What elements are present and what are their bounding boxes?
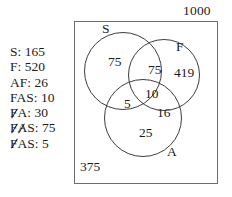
region-count-all-three: 10 [145, 86, 159, 102]
given-row-fa-struck: FA: 30 [10, 105, 72, 120]
given-row-fas-struck-fa: FAS: 75 [10, 120, 72, 135]
given-value-af: 26 [34, 75, 48, 90]
given-term-fa-rest: A: [18, 105, 32, 120]
given-term-f: F: [10, 59, 21, 74]
region-count-outside-all-sets: 375 [80, 159, 100, 175]
given-row-s: S: 165 [10, 44, 72, 59]
given-term-fas-rest: S: [27, 120, 38, 135]
given-term-fas: FAS: [10, 90, 38, 105]
region-count-s-and-f: 75 [148, 62, 162, 78]
struck-letter-f: F [10, 105, 18, 120]
given-value-f: 520 [25, 59, 45, 74]
set-label-f: F [176, 39, 184, 55]
given-value-s: 165 [25, 44, 45, 59]
struck-letter-f: F [10, 120, 18, 135]
venn-diagram-figure: S: 165 F: 520 AF: 26 FAS: 10 FA: 30 FAS:… [0, 0, 232, 197]
given-term-s: S: [10, 44, 21, 59]
set-label-a: A [167, 144, 177, 160]
region-count-a-only: 25 [139, 125, 153, 141]
struck-letter-f: F [10, 136, 18, 151]
universal-set-total: 1000 [183, 3, 211, 19]
region-count-s-and-a: 5 [124, 96, 131, 112]
given-term-af: AF: [10, 75, 31, 90]
given-value-fas: 10 [41, 90, 55, 105]
given-row-f: F: 520 [10, 59, 72, 74]
region-count-s-only: 75 [108, 54, 122, 70]
struck-letter-a: A [18, 120, 28, 135]
given-row-fas: FAS: 10 [10, 90, 72, 105]
given-value-fa: 30 [34, 105, 48, 120]
given-value-fas-75: 75 [42, 120, 56, 135]
given-row-fas-struck-f: FAS: 5 [10, 136, 72, 151]
given-values-list: S: 165 F: 520 AF: 26 FAS: 10 FA: 30 FAS:… [10, 44, 72, 151]
given-term-fas-rest2: AS: [18, 136, 39, 151]
region-count-f-only: 419 [174, 65, 194, 81]
region-count-f-and-a: 16 [157, 105, 171, 121]
given-value-fas-5: 5 [42, 136, 49, 151]
set-label-s: S [102, 21, 110, 37]
given-row-af: AF: 26 [10, 75, 72, 90]
